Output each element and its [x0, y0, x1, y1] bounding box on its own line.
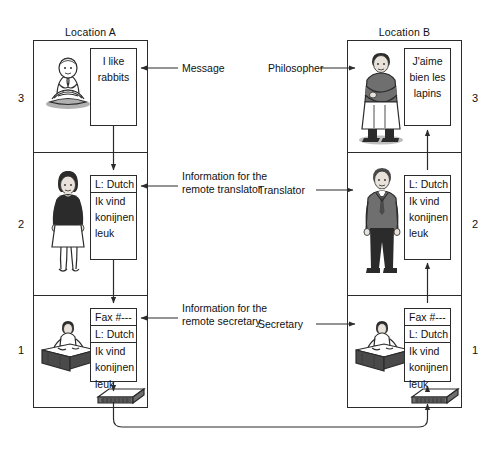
pdu-line: Ik vind: [405, 193, 450, 209]
pdu-header: L: Dutch: [405, 326, 450, 343]
message-line: rabbits: [91, 69, 136, 85]
layer-number-left-2: 2: [14, 218, 28, 230]
pdu-line: Ik vind: [405, 343, 450, 359]
diagram-canvas: Location A Location B 3 2 1 3 2 1: [0, 0, 495, 456]
annotation-translator: Translator: [258, 184, 305, 197]
message-line: J'aime: [405, 53, 450, 69]
pdu-header: L: Dutch: [405, 176, 450, 193]
message-line: lapins: [405, 85, 450, 101]
annotation-message: Message: [182, 62, 225, 75]
standing-woman-translator-icon: [43, 170, 93, 275]
pdu-header: L: Dutch: [91, 176, 136, 193]
standing-man-translator-icon: [356, 166, 408, 276]
layer-number-right-2: 2: [468, 218, 482, 230]
pdu-line: konijnen: [405, 209, 450, 225]
pdu-line: leuk: [91, 376, 136, 392]
right-layer2-pdu-box: L: Dutch Ik vind konijnen leuk: [404, 175, 451, 260]
standing-monk-philosopher-icon: [352, 50, 410, 148]
pdu-line: Ik vind: [91, 343, 136, 359]
pdu-line: leuk: [405, 376, 450, 392]
message-line: I like: [91, 53, 136, 69]
right-layer3-message-box: J'aime bien les lapins: [404, 48, 451, 126]
location-b-divider-3-2: [347, 152, 462, 153]
left-layer3-message-box: I like rabbits: [90, 48, 137, 126]
layer-number-right-1: 1: [468, 344, 482, 356]
annotation-secretary: Secretary: [258, 318, 303, 331]
annotation-philosopher: Philosopher: [268, 62, 323, 75]
layer-number-right-3: 3: [468, 92, 482, 104]
location-a-title: Location A: [33, 26, 148, 38]
pdu-line: konijnen: [91, 359, 136, 375]
pdu-line: Ik vind: [91, 193, 136, 209]
location-a-divider-3-2: [33, 152, 148, 153]
left-layer2-pdu-box: L: Dutch Ik vind konijnen leuk: [90, 175, 137, 260]
pdu-line: leuk: [91, 225, 136, 241]
layer-number-left-1: 1: [14, 344, 28, 356]
pdu-line: konijnen: [405, 359, 450, 375]
seated-philosopher-icon: [40, 52, 96, 112]
pdu-line: konijnen: [91, 209, 136, 225]
pdu-header: L: Dutch: [91, 326, 136, 343]
pdu-line: leuk: [405, 225, 450, 241]
right-layer1-pdu-box: Fax #--- L: Dutch Ik vind konijnen leuk: [404, 308, 451, 382]
fax-header: Fax #---: [91, 309, 136, 326]
fax-header: Fax #---: [405, 309, 450, 326]
message-line: bien les: [405, 69, 450, 85]
left-layer1-pdu-box: Fax #--- L: Dutch Ik vind konijnen leuk: [90, 308, 137, 382]
location-b-divider-2-1: [347, 295, 462, 296]
location-b-title: Location B: [347, 26, 462, 38]
layer-number-left-3: 3: [14, 92, 28, 104]
location-a-divider-2-1: [33, 295, 148, 296]
